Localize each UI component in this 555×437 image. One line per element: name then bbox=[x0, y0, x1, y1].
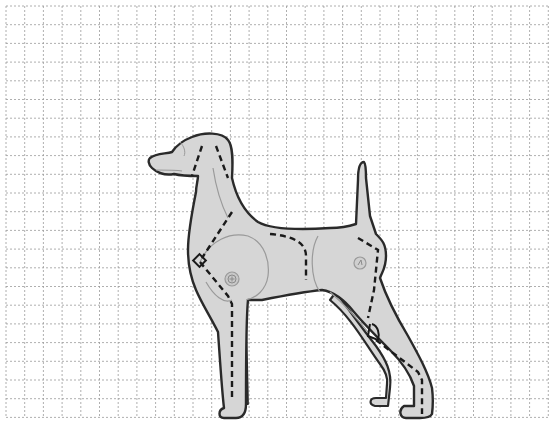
dog-pattern-diagram bbox=[0, 0, 555, 437]
dog-figure bbox=[149, 134, 433, 418]
background-grid bbox=[6, 6, 548, 417]
hip-joint-button bbox=[354, 257, 366, 269]
front-shoulder-joint-button bbox=[225, 272, 239, 286]
